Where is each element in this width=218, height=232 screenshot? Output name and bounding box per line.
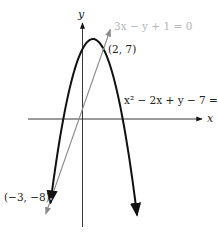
point-lower-label: (−3, −8) xyxy=(4,191,50,203)
intersection-point-lower xyxy=(50,198,53,201)
parabola-curve xyxy=(50,39,137,215)
x-axis-label: x xyxy=(207,112,214,125)
parabola-equation-label: x² − 2x + y − 7 = 0 xyxy=(124,94,218,106)
line-equation-label: 3x − y + 1 = 0 xyxy=(114,20,192,32)
point-upper-label: (2, 7) xyxy=(108,43,136,55)
y-axis-label: y xyxy=(77,8,85,21)
intersection-point-upper xyxy=(102,48,105,51)
graph-plot: y x 3x − y + 1 = 0 (2, 7) x² − 2x + y − … xyxy=(0,0,218,232)
